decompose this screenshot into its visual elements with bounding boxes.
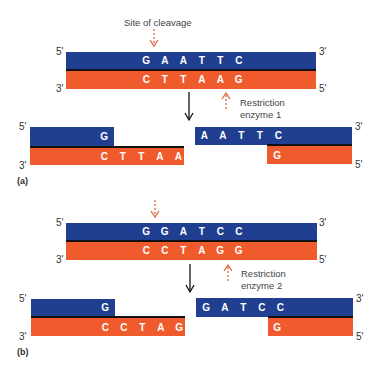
base: A	[193, 245, 212, 256]
base: G	[95, 131, 114, 142]
base: G	[230, 245, 249, 256]
base: A	[151, 151, 170, 162]
cut-result-arrow-icon	[184, 264, 196, 294]
base: A	[211, 74, 230, 85]
base: G	[268, 150, 287, 161]
panel-label-b: (b)	[17, 347, 29, 357]
base: C	[253, 302, 272, 313]
intact-top-5-end: 5'	[56, 217, 63, 228]
right-fragment-5-end: 5'	[356, 331, 363, 342]
base: C	[271, 302, 290, 313]
base: A	[174, 55, 193, 66]
intact-bottom-sequence: CCTAGG	[137, 245, 248, 256]
intact-bottom-sequence: CTTAAG	[137, 74, 248, 85]
base: T	[251, 130, 270, 141]
intact-bottom-3-end: 3'	[56, 254, 63, 265]
left-fragment-bottom-sequence: CTTAA	[95, 151, 188, 162]
intact-top-sequence: GAATTC	[137, 55, 248, 66]
enzyme-label-line2: enzyme 1	[240, 109, 285, 121]
base: C	[211, 226, 230, 237]
base: A	[193, 74, 212, 85]
base: T	[234, 302, 253, 313]
intact-top-sequence: GGATCC	[137, 226, 248, 237]
left-fragment-3-end: 3'	[19, 160, 26, 171]
enzyme-arrow-icon	[222, 264, 234, 284]
base: C	[137, 74, 156, 85]
left-fragment-top-sequence: G	[96, 302, 115, 313]
base: T	[193, 55, 212, 66]
base: C	[230, 226, 249, 237]
base: G	[230, 74, 249, 85]
right-fragment-3-end: 3'	[355, 121, 362, 132]
right-fragment-3-end: 3'	[356, 293, 363, 304]
right-fragment-5-end: 5'	[355, 159, 362, 170]
base: G	[197, 302, 216, 313]
base: C	[137, 245, 156, 256]
base: T	[156, 74, 175, 85]
base: C	[230, 55, 249, 66]
base: G	[156, 226, 175, 237]
left-fragment-3-end: 3'	[19, 331, 26, 342]
intact-bottom-5-end: 5'	[319, 254, 326, 265]
panel-label-a: (a)	[17, 176, 28, 186]
base: T	[133, 322, 152, 333]
base: G	[170, 322, 189, 333]
base: T	[132, 151, 151, 162]
base: T	[114, 151, 133, 162]
intact-bottom-5-end: 5'	[319, 83, 326, 94]
enzyme-label-line1: Restriction	[241, 268, 286, 280]
enzyme-label-line1: Restriction	[240, 97, 285, 109]
base: A	[214, 130, 233, 141]
right-fragment-top-sequence: GATCC	[197, 302, 290, 313]
base: C	[96, 322, 115, 333]
base: A	[156, 55, 175, 66]
cleavage-site-label: Site of cleavage	[124, 17, 192, 29]
cleavage-arrow-icon	[149, 200, 161, 220]
enzyme-label-line2: enzyme 2	[241, 280, 286, 292]
base: T	[232, 130, 251, 141]
left-fragment-5-end: 5'	[19, 121, 26, 132]
intact-top-3-end: 3'	[319, 217, 326, 228]
enzyme-label: Restriction enzyme 2	[241, 268, 286, 292]
left-fragment-top-sequence: G	[95, 131, 114, 142]
intact-top-3-end: 3'	[319, 46, 326, 57]
base: G	[137, 226, 156, 237]
base: G	[96, 302, 115, 313]
base: C	[269, 130, 288, 141]
base: A	[174, 226, 193, 237]
base: C	[95, 151, 114, 162]
base: G	[137, 55, 156, 66]
base: T	[211, 55, 230, 66]
base: T	[174, 245, 193, 256]
base: T	[193, 226, 212, 237]
enzyme-arrow-icon	[220, 92, 232, 112]
base: G	[211, 245, 230, 256]
intact-bottom-3-end: 3'	[56, 83, 63, 94]
base: T	[174, 74, 193, 85]
base: A	[216, 302, 235, 313]
base: A	[195, 130, 214, 141]
base: G	[268, 322, 287, 333]
base: C	[156, 245, 175, 256]
base: A	[169, 151, 188, 162]
cut-result-arrow-icon	[183, 92, 195, 122]
left-fragment-5-end: 5'	[19, 293, 26, 304]
base: C	[115, 322, 134, 333]
right-fragment-bottom-sequence: G	[268, 150, 287, 161]
enzyme-label: Restriction enzyme 1	[240, 97, 285, 121]
base: A	[152, 322, 171, 333]
left-fragment-bottom-sequence: CCTAG	[96, 322, 189, 333]
right-fragment-top-sequence: AATTC	[195, 130, 288, 141]
cleavage-arrow-icon	[148, 29, 160, 49]
intact-top-5-end: 5'	[56, 46, 63, 57]
right-fragment-bottom-sequence: G	[268, 322, 287, 333]
